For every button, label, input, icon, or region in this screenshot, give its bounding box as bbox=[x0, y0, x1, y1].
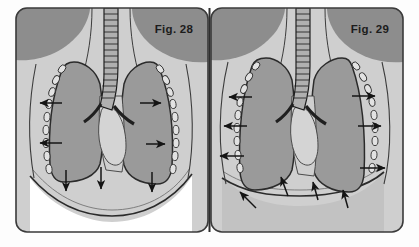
panel-right: Fig. 29 bbox=[211, 8, 403, 232]
figure-label-29: Fig. 29 bbox=[351, 23, 390, 35]
lung-right-r bbox=[311, 58, 365, 192]
figure-plate: Fig. 28 bbox=[0, 0, 419, 247]
illustration-canvas: Fig. 28 bbox=[0, 0, 419, 247]
figure-label-28: Fig. 28 bbox=[155, 23, 194, 35]
panel-left: Fig. 28 bbox=[16, 8, 208, 232]
